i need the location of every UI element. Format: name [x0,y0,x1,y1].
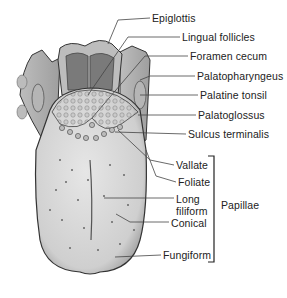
label-palatine-tonsil: Palatine tonsil [200,90,267,101]
palatine-tonsil-left [32,84,44,112]
label-vallate: Vallate [176,160,208,171]
label-sulcus-terminalis: Sulcus terminalis [188,129,269,140]
epiglottis-shape [58,40,122,95]
label-long-filiform-line2: filiform [176,206,208,217]
label-palatopharyngeus: Palatopharyngeus [197,71,283,82]
label-epiglottis: Epiglottis [152,13,196,24]
label-foramen-cecum: Foramen cecum [190,51,267,62]
label-lingual-follicles: Lingual follicles [182,32,255,43]
label-fungiform: Fungiform [163,250,211,261]
label-long-filiform-line1: Long [176,194,200,205]
papillae-bracket [208,156,214,262]
label-foliate: Foliate [178,177,210,188]
tongue-diagram [0,0,287,298]
label-papillae-group: Papillae [221,200,259,211]
label-conical: Conical [171,218,207,229]
label-palatoglossus: Palatoglossus [198,110,265,121]
